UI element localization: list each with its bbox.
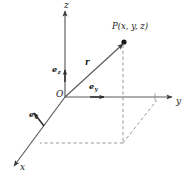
origin-label: O xyxy=(56,90,63,99)
unit-vector-ex-subscript: x xyxy=(34,114,37,120)
axis-x-line xyxy=(14,97,65,166)
unit-vector-label-ey: ey xyxy=(89,82,97,91)
axis-y xyxy=(65,94,172,101)
projection-line-to-y xyxy=(123,100,157,143)
unit-vector-label-ez: ez xyxy=(52,65,60,74)
axis-label-x: x xyxy=(20,163,25,172)
axis-x xyxy=(14,97,65,166)
unit-vector-label-ex: ex xyxy=(29,110,37,119)
point-label-p: P(x, y, z) xyxy=(112,22,148,31)
point-p-marker xyxy=(121,39,126,44)
unit-vector-ez-subscript: z xyxy=(57,69,60,75)
axis-label-y: y xyxy=(176,97,181,106)
coordinate-system-figure: z y x O P(x, y, z) r ez ey ex xyxy=(0,0,193,180)
vector-label-r: r xyxy=(85,58,89,67)
unit-vector-ey-subscript: y xyxy=(94,86,97,92)
axis-label-z: z xyxy=(64,1,69,10)
